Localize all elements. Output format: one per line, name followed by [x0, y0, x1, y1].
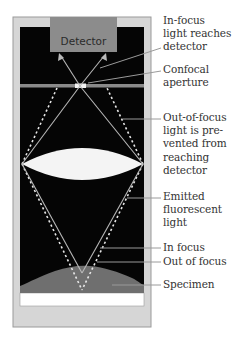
label-line: fluorescent — [163, 203, 222, 216]
label-line: Out of focus — [163, 255, 227, 268]
label-line: Out-of-focus — [163, 111, 227, 124]
label-line: In focus — [163, 241, 205, 254]
label-line: Emitted — [163, 190, 222, 203]
label-emitted-light: Emitted fluorescent light — [163, 190, 222, 230]
label-line: detector — [163, 164, 227, 177]
label-line: In-focus — [163, 14, 231, 27]
label-line: Specimen — [163, 278, 215, 291]
label-line: light is pre- — [163, 124, 227, 137]
label-in-focus-light: In-focus light reaches detector — [163, 14, 231, 54]
detector-label: Detector — [61, 35, 107, 47]
label-line: Confocal — [163, 63, 209, 76]
label-out-of-focus: Out of focus — [163, 255, 227, 268]
label-line: reaching — [163, 151, 227, 164]
label-in-focus: In focus — [163, 241, 205, 254]
label-line: light — [163, 216, 222, 229]
label-line: light reaches — [163, 27, 231, 40]
label-specimen: Specimen — [163, 278, 215, 291]
label-out-of-focus-blocked: Out-of-focus light is pre- vented from r… — [163, 111, 227, 177]
stage-strip — [20, 293, 144, 306]
label-line: aperture — [163, 76, 209, 89]
label-line: detector — [163, 40, 231, 53]
label-line: vented from — [163, 137, 227, 150]
label-confocal-aperture: Confocal aperture — [163, 63, 209, 89]
